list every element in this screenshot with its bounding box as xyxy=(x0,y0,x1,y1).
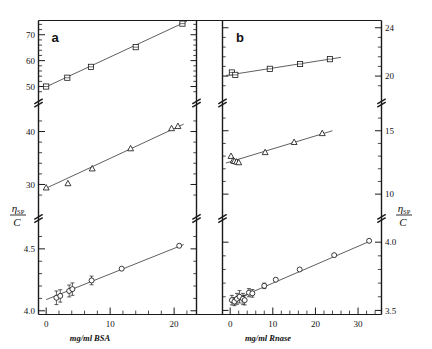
panel-b-datapoint-circle-2-9 xyxy=(273,277,278,282)
panel-a-datapoint-circle-2-1 xyxy=(58,293,63,298)
panel-b-ytick-label-10: 10 xyxy=(385,189,395,199)
figure-svg: 70605040304.54.0242015104.03.50102001020… xyxy=(0,0,432,349)
panel-b-ytick-label-3.5: 3.5 xyxy=(385,306,397,316)
figure-background xyxy=(0,0,432,349)
panel-a-datapoint-circle-2-5 xyxy=(119,266,124,271)
panel-a-datapoint-circle-2-3 xyxy=(70,287,75,292)
panel-a-ytick-label-40: 40 xyxy=(26,127,36,137)
panel-b-xtick-label-20: 20 xyxy=(311,319,321,329)
panel-b-xtick-label-30: 30 xyxy=(354,319,364,329)
panel-b-datapoint-circle-2-12 xyxy=(367,238,372,243)
panel-b-ytick-label-15: 15 xyxy=(385,126,395,136)
panel-b-ytick-label-4.0: 4.0 xyxy=(385,237,397,247)
panel-a-ytick-label-60: 60 xyxy=(26,56,36,66)
panel-a-xtick-label-20: 20 xyxy=(170,319,180,329)
panel-b-datapoint-circle-2-5 xyxy=(242,298,247,303)
panel-b-y-axis-title-denominator: C xyxy=(399,216,407,228)
panel-a-ytick-label-30: 30 xyxy=(26,180,36,190)
panel-a-label: a xyxy=(51,30,59,45)
panel-b-datapoint-circle-2-10 xyxy=(297,267,302,272)
panel-b-label: b xyxy=(236,30,244,45)
figure-container: 70605040304.54.0242015104.03.50102001020… xyxy=(0,0,432,349)
panel-b-x-axis-title: mg/ml Rnase xyxy=(245,333,291,343)
panel-a-x-axis-title: mg/ml BSA xyxy=(70,333,111,343)
panel-b-ytick-label-24: 24 xyxy=(385,23,395,33)
panel-b-datapoint-circle-2-7 xyxy=(250,291,255,296)
panel-a-datapoint-circle-2-4 xyxy=(89,278,94,283)
panel-a-xtick-label-0: 0 xyxy=(44,319,49,329)
panel-b-xtick-label-10: 10 xyxy=(268,319,278,329)
panel-b-datapoint-circle-2-11 xyxy=(332,253,337,258)
panel-a-ytick-label-4.5: 4.5 xyxy=(24,244,36,254)
panel-b-ytick-label-20: 20 xyxy=(385,71,395,81)
panel-b-datapoint-circle-2-8 xyxy=(262,283,267,288)
panel-b-xtick-label-0: 0 xyxy=(228,319,233,329)
panel-a-y-axis-title-denominator: C xyxy=(13,216,21,228)
panel-a-ytick-label-50: 50 xyxy=(26,82,36,92)
panel-a-ytick-label-70: 70 xyxy=(26,30,36,40)
panel-a-xtick-label-10: 10 xyxy=(106,319,116,329)
panel-a-datapoint-circle-2-6 xyxy=(177,243,182,248)
panel-a-ytick-label-4.0: 4.0 xyxy=(24,306,36,316)
